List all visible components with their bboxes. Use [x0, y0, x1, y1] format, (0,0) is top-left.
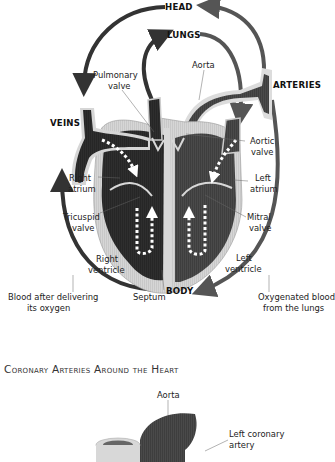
- label-tricuspid-valve-2: valve: [72, 223, 95, 234]
- label-veins: VEINS: [50, 118, 80, 128]
- label-body: BODY: [166, 286, 193, 296]
- label-right-ventricle-2: ventricle: [88, 265, 125, 276]
- label-arteries: ARTERIES: [273, 80, 321, 90]
- label-left-atrium-2: atrium: [250, 184, 278, 195]
- label-mitral-valve-1: Mitral: [247, 212, 271, 223]
- label-tricuspid-valve-1: Tricuspid: [63, 212, 100, 223]
- label-aortic-valve-1: Aortic: [250, 136, 274, 147]
- label-left-coronary-1: Left coronary: [229, 429, 284, 440]
- label-lungs: LUNGS: [167, 30, 201, 40]
- label-aorta: Aorta: [192, 60, 215, 71]
- label-septum: Septum: [133, 292, 166, 303]
- coronary-diagram: [96, 400, 228, 462]
- label-left-coronary-2: artery: [229, 440, 254, 451]
- label-pulmonary-valve-1: Pulmonary: [93, 70, 138, 81]
- label-right-atrium-1: Right: [69, 173, 91, 184]
- label-deoxygenated-1: Blood after delivering: [8, 292, 98, 303]
- label-oxygenated-1: Oxygenated blood: [258, 292, 335, 303]
- label-deoxygenated-2: its oxygen: [27, 303, 70, 314]
- pulmonary-vein: [222, 118, 240, 154]
- label-pulmonary-valve-2: valve: [108, 81, 131, 92]
- label-mitral-valve-2: valve: [249, 223, 272, 234]
- coronary-section-title: Coronary Arteries Around the Heart: [4, 363, 179, 375]
- label-left-ventricle-1: Left: [236, 253, 252, 264]
- label-aortic-valve-2: valve: [251, 147, 274, 158]
- label-left-atrium-1: Left: [255, 173, 271, 184]
- label-oxygenated-2: from the lungs: [263, 303, 324, 314]
- label-left-ventricle-2: ventricle: [225, 264, 262, 275]
- label-right-ventricle-1: Right: [96, 254, 118, 265]
- pulmonary-trunk: [148, 98, 162, 140]
- label-coronary-aorta: Aorta: [157, 390, 180, 401]
- label-right-atrium-2: atrium: [68, 184, 96, 195]
- label-head: HEAD: [165, 2, 193, 12]
